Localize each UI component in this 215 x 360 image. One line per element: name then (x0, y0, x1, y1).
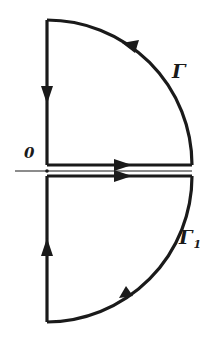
arrow-up-icon (41, 238, 53, 256)
origin-label: 0 (24, 146, 34, 161)
lower-contour-gamma1 (47, 176, 192, 322)
gamma-label: Γ (172, 62, 186, 81)
upper-contour-gamma (47, 20, 192, 165)
arrow-down-left-icon (119, 286, 133, 298)
arrow-down-icon (41, 86, 53, 104)
contour-diagram (0, 0, 215, 360)
origin-point (45, 169, 49, 173)
arrow-right-icon (114, 170, 132, 182)
arrow-right-icon (114, 159, 132, 171)
gamma1-label-base: Γ (179, 226, 193, 248)
gamma1-label-subscript: 1 (194, 238, 202, 251)
lower-arc (47, 176, 192, 322)
upper-arc (47, 20, 192, 165)
gamma1-label: Γ1 (179, 228, 201, 250)
